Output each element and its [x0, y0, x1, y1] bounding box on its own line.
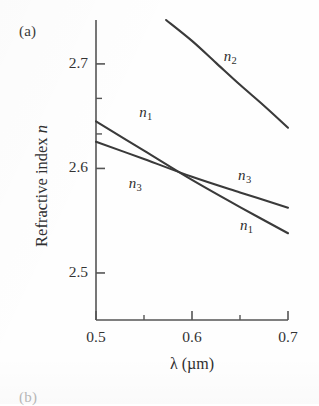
x-tick-label: 0.6	[169, 328, 215, 346]
n1-label-right: n1	[240, 217, 253, 235]
annotation-subscript: 3	[136, 182, 141, 193]
n2-label: n2	[224, 48, 237, 66]
n1-label-left: n1	[139, 104, 152, 122]
x-tick-label: 0.7	[265, 328, 311, 346]
annotation-subscript: 1	[147, 111, 152, 122]
annotation-subscript: 3	[246, 174, 251, 185]
y-axis-title: Refractive index n	[32, 79, 52, 294]
curve-layer	[96, 20, 288, 233]
annotation-symbol: n	[238, 167, 246, 183]
annotation-symbol: n	[240, 217, 248, 233]
annotation-subscript: 1	[248, 224, 253, 235]
n3-label-right: n3	[238, 167, 251, 185]
annotation-symbol: n	[129, 175, 137, 191]
annotation-symbol: n	[139, 104, 147, 120]
curve-n3	[96, 142, 288, 208]
panel-label-b: (b)	[19, 389, 37, 406]
y-tick-label: 2.7	[44, 54, 88, 72]
axis-spines	[96, 20, 288, 320]
n3-label-left: n3	[129, 175, 142, 193]
curve-n2	[166, 20, 288, 128]
x-axis-title: λ (µm)	[96, 355, 288, 373]
annotation-subscript: 2	[231, 55, 236, 66]
x-tick-label: 0.5	[73, 328, 119, 346]
